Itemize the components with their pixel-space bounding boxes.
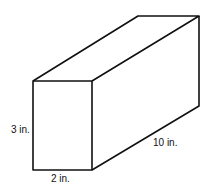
top-face-edges (33, 16, 199, 81)
length-label: 10 in. (153, 137, 177, 148)
rectangular-prism-diagram: 3 in. 2 in. 10 in. (0, 0, 208, 189)
side-face-edges (92, 16, 199, 170)
height-label: 3 in. (11, 124, 30, 135)
width-label: 2 in. (51, 173, 70, 184)
front-face (33, 81, 92, 170)
